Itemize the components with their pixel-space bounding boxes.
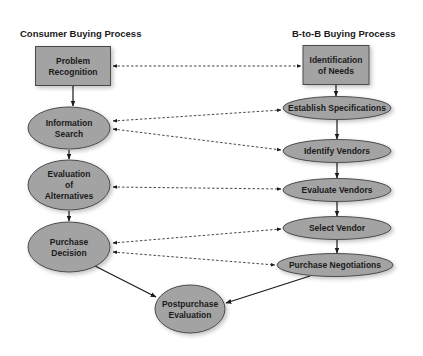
- select-vendor-label-line: Select Vendor: [309, 223, 366, 233]
- node-evaluation-of-alternatives: EvaluationofAlternatives: [28, 160, 110, 210]
- flow-arrow-purchase-negotiations-to-postpurchase-evaluation: [226, 276, 310, 303]
- node-establish-specifications: Establish Specifications: [283, 97, 391, 120]
- node-problem-recognition: ProblemRecognition: [36, 47, 111, 86]
- b2b-process-header: B-to-B Buying Process: [292, 28, 395, 39]
- purchase-decision-label-line: Purchase: [50, 237, 89, 247]
- postpurchase-evaluation-label-line: Postpurchase: [162, 299, 218, 309]
- node-select-vendor: Select Vendor: [283, 217, 391, 240]
- problem-recognition-label-line: Recognition: [48, 67, 97, 77]
- evaluate-vendors-label-line: Evaluate Vendors: [302, 185, 373, 195]
- correspondence-arrow-purchase-decision-purchase-negotiations: [113, 252, 275, 265]
- consumer-process-header: Consumer Buying Process: [20, 28, 141, 39]
- identify-vendors-label-line: Identify Vendors: [304, 146, 370, 156]
- node-information-search: InformationSearch: [28, 107, 110, 149]
- evaluation-of-alternatives-label-line: of: [65, 180, 73, 190]
- correspondence-arrow-evaluation-of-alternatives-evaluate-vendors: [113, 187, 281, 189]
- node-identification-of-needs: Identificationof Needs: [303, 46, 369, 85]
- node-purchase-negotiations: Purchase Negotiations: [277, 254, 393, 277]
- flow-arrow-purchase-decision-to-postpurchase-evaluation: [95, 266, 156, 297]
- correspondence-arrow-purchase-decision-select-vendor: [113, 229, 281, 243]
- identification-of-needs-label-line: of Needs: [318, 66, 354, 76]
- correspondence-arrow-information-search-identify-vendors: [113, 129, 281, 150]
- node-evaluate-vendors: Evaluate Vendors: [283, 179, 391, 202]
- buying-process-diagram: Consumer Buying Process B-to-B Buying Pr…: [0, 0, 423, 356]
- information-search-label-line: Search: [55, 129, 83, 139]
- node-postpurchase-evaluation: PostpurchaseEvaluation: [155, 285, 225, 333]
- correspondence-arrow-information-search-establish-specifications: [113, 110, 281, 121]
- information-search-label-line: Information: [46, 118, 93, 128]
- purchase-decision-label-line: Decision: [51, 248, 86, 258]
- identification-of-needs-label-line: Identification: [310, 55, 363, 65]
- establish-specifications-label-line: Establish Specifications: [288, 103, 386, 113]
- node-purchase-decision: PurchaseDecision: [28, 222, 110, 272]
- problem-recognition-label-line: Problem: [56, 56, 90, 66]
- evaluation-of-alternatives-label-line: Evaluation: [48, 169, 91, 179]
- node-identify-vendors: Identify Vendors: [283, 140, 391, 163]
- postpurchase-evaluation-label-line: Evaluation: [169, 310, 212, 320]
- purchase-negotiations-label-line: Purchase Negotiations: [289, 260, 381, 270]
- evaluation-of-alternatives-label-line: Alternatives: [45, 191, 94, 201]
- nodes-layer: ProblemRecognitionInformationSearchEvalu…: [28, 46, 393, 334]
